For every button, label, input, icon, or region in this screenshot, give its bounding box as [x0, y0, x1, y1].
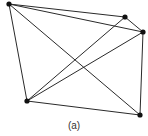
node-n2: [122, 14, 127, 19]
node-n1: [6, 1, 11, 6]
edge-n3-n4: [27, 32, 143, 101]
node-n5: [137, 112, 142, 117]
edge-n2-n4: [27, 17, 125, 101]
edge-n1-n4: [9, 4, 27, 101]
node-n3: [140, 29, 145, 34]
graph-diagram: (a): [0, 0, 148, 136]
edge-n3-n5: [140, 32, 143, 115]
node-n4: [24, 98, 29, 103]
edge-n1-n2: [9, 4, 125, 17]
graph-edges: [9, 4, 143, 115]
figure-caption: (a): [68, 120, 80, 131]
edge-n4-n5: [27, 101, 140, 115]
